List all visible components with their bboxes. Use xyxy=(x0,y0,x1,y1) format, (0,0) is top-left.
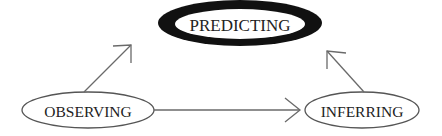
observing-label: OBSERVING xyxy=(44,103,131,120)
process-diagram: PREDICTING OBSERVING INFERRING xyxy=(0,0,442,136)
node-inferring: INFERRING xyxy=(305,92,419,128)
arrow-shaft xyxy=(327,51,364,92)
arrow-observing-to-inferring xyxy=(154,98,300,122)
node-observing: OBSERVING xyxy=(22,92,154,128)
arrow-shaft xyxy=(84,45,131,92)
node-predicting: PREDICTING xyxy=(158,0,322,46)
arrow-observing-to-predicting xyxy=(84,45,131,92)
arrow-inferring-to-predicting xyxy=(327,51,364,92)
inferring-label: INFERRING xyxy=(321,103,404,120)
predicting-label: PREDICTING xyxy=(189,16,290,35)
